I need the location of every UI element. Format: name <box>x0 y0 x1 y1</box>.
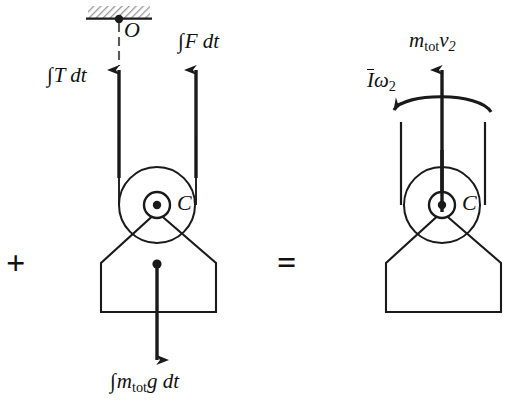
label-angular-momentum-omega: ω <box>374 68 389 92</box>
hanging-body-outline-right <box>386 212 501 312</box>
support-point-o-dot <box>115 15 123 23</box>
label-point-c-left: C <box>177 192 192 214</box>
pulley-center-dot <box>153 201 161 209</box>
label-linear-momentum-sub: tot <box>424 38 439 54</box>
diagram-canvas: + = O C ∫T dt ∫F dt ∫mtotg dt C Iω2 mtot… <box>0 0 505 402</box>
label-linear-momentum-velocity: v <box>439 28 448 52</box>
label-point-o: O <box>124 19 140 41</box>
label-linear-momentum: mtotv2 <box>409 30 456 53</box>
right-system-group <box>386 70 501 312</box>
label-angular-momentum-sub: 2 <box>389 78 396 94</box>
label-angular-momentum: Iω2 <box>367 70 396 93</box>
label-weight-impulse-tail: g dt <box>147 369 179 393</box>
label-weight-impulse: ∫mtotg dt <box>110 371 179 394</box>
label-weight-impulse-sub: tot <box>132 379 147 395</box>
label-point-c-right: C <box>462 192 477 214</box>
equals-operator: = <box>277 246 296 280</box>
label-weight-impulse-mass: m <box>117 369 132 393</box>
diagram-vector-layer <box>0 0 505 402</box>
integral-sign-weight: ∫ <box>110 369 117 393</box>
integral-sign-force: ∫ <box>178 29 185 53</box>
label-force-impulse: ∫F dt <box>178 31 219 52</box>
label-tension-impulse-body: T dt <box>54 63 87 87</box>
label-angular-momentum-inertia: I <box>367 70 374 91</box>
label-force-impulse-body: F dt <box>185 29 219 53</box>
plus-operator: + <box>6 246 25 280</box>
integral-sign-tension: ∫ <box>47 63 54 87</box>
label-linear-momentum-vsub: 2 <box>449 38 456 54</box>
left-system-group <box>86 6 216 360</box>
label-tension-impulse: ∫T dt <box>47 65 87 86</box>
label-linear-momentum-mass: m <box>409 28 424 52</box>
